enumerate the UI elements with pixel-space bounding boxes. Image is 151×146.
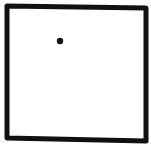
drawing-canvas bbox=[0, 0, 151, 146]
hand-drawn-square bbox=[7, 6, 146, 141]
dot bbox=[57, 38, 63, 44]
